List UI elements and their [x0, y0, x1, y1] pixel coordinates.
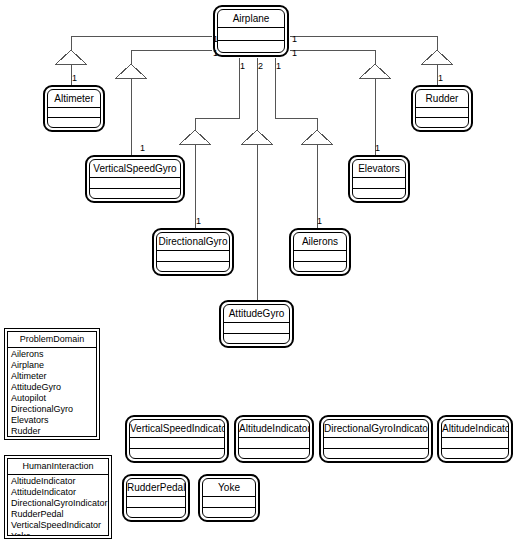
class-box-altitude_ind_2[interactable]: AltitudeIndicator — [437, 415, 513, 463]
class-attributes-compartment — [48, 108, 100, 118]
package-list-item[interactable]: Airplane — [11, 360, 93, 371]
generalization-triangle-directionalgyro — [180, 130, 210, 144]
class-name: AltitudeIndicator — [442, 420, 508, 438]
class-operations-compartment — [90, 189, 180, 199]
multiplicity-m-ag-bot: 2 — [258, 62, 263, 71]
generalization-triangle-elevators — [360, 64, 390, 78]
package-box-human_interaction[interactable]: HumanInteractionAltitudeIndicatorAttitud… — [4, 455, 112, 539]
class-attributes-compartment — [442, 438, 508, 449]
class-box-vertical_speed_gyro[interactable]: VerticalSpeedGyro — [85, 155, 185, 203]
multiplicity-m-altimeter: 1 — [72, 74, 77, 83]
class-box-inner: Ailerons — [293, 232, 347, 272]
multiplicity-m-alt-top: 1 — [213, 35, 218, 44]
package-name: ProblemDomain — [8, 332, 96, 348]
class-name: VerticalSpeedIndicator — [130, 420, 224, 438]
multiplicity-m-elevators: 1 — [375, 144, 380, 153]
package-list-item[interactable]: DirectionalGyro — [11, 404, 93, 415]
multiplicity-m-rud-top: 1 — [292, 35, 297, 44]
class-name: Rudder — [416, 90, 468, 108]
class-box-inner: DirectionalGyro — [156, 232, 230, 272]
line-airplane-ailerons — [275, 58, 317, 130]
line-airplane-rudder — [290, 36, 437, 50]
class-attributes-compartment — [203, 497, 255, 508]
package-item-list: AileronsAirplaneAltimeterAttitudeGyroAut… — [8, 348, 96, 437]
package-item-list: AltitudeIndicatorAttitudeIndicatorDirect… — [8, 475, 108, 536]
class-box-vertical_speed_ind[interactable]: VerticalSpeedIndicator — [125, 415, 229, 463]
package-list-item[interactable]: AttitudeGyro — [11, 382, 93, 393]
class-operations-compartment — [130, 449, 224, 459]
class-box-rudder_pedal[interactable]: RudderPedal — [122, 474, 190, 522]
line-airplane-verticalspeedgyro — [131, 50, 212, 64]
generalization-triangle-ailerons — [302, 130, 332, 144]
class-box-inner: VerticalSpeedIndicator — [129, 419, 225, 459]
class-box-rudder[interactable]: Rudder — [411, 85, 473, 132]
multiplicity-m-vsgyro: 1 — [140, 144, 145, 153]
multiplicity-m-ail-bot: 1 — [276, 62, 281, 71]
class-operations-compartment — [239, 449, 309, 459]
class-name: VerticalSpeedGyro — [90, 160, 180, 178]
class-operations-compartment — [416, 118, 468, 127]
package-list-item[interactable]: Yoke — [11, 531, 105, 536]
package-box-problem_domain[interactable]: ProblemDomainAileronsAirplaneAltimeterAt… — [4, 328, 100, 440]
package-list-item[interactable]: Autopilot — [11, 393, 93, 404]
package-list-item[interactable]: DirectionalGyroIndicator — [11, 498, 105, 509]
class-operations-compartment — [442, 449, 508, 459]
package-box-inner: ProblemDomainAileronsAirplaneAltimeterAt… — [7, 331, 97, 437]
class-attributes-compartment — [90, 178, 180, 189]
class-box-attitude_gyro[interactable]: AttitudeGyro — [219, 300, 294, 348]
class-box-inner: VerticalSpeedGyro — [89, 159, 181, 199]
package-list-item[interactable]: Elevators — [11, 415, 93, 426]
class-name: Altimeter — [48, 90, 100, 108]
class-box-directional_gyro[interactable]: DirectionalGyro — [152, 228, 234, 276]
class-operations-compartment — [203, 508, 255, 518]
multiplicity-m-ailerons: 1 — [317, 217, 322, 226]
generalization-triangle-rudder — [422, 50, 452, 64]
class-box-inner: AltitudeIndicator — [441, 419, 509, 459]
generalization-triangle-verticalspeedgyro — [116, 64, 146, 78]
class-box-altitude_ind_1[interactable]: AltitudeIndicator — [234, 415, 314, 463]
class-operations-compartment — [157, 262, 229, 272]
package-list-item[interactable]: RudderPedal — [11, 509, 105, 520]
class-name: Elevators — [353, 160, 405, 178]
line-airplane-directionalgyro — [195, 58, 239, 130]
class-box-airplane[interactable]: Airplane — [213, 5, 289, 57]
class-attributes-compartment — [127, 497, 185, 508]
package-list-item[interactable]: AttitudeIndicator — [11, 487, 105, 498]
class-box-yoke[interactable]: Yoke — [198, 474, 260, 522]
class-box-inner: Rudder — [415, 89, 469, 128]
class-box-inner: Altimeter — [47, 89, 101, 128]
class-box-inner: Yoke — [202, 478, 256, 518]
class-attributes-compartment — [224, 323, 289, 334]
class-box-elevators[interactable]: Elevators — [348, 155, 410, 203]
class-operations-compartment — [127, 508, 185, 518]
package-list-item[interactable]: Rudder — [11, 426, 93, 437]
class-attributes-compartment — [416, 108, 468, 118]
class-attributes-compartment — [353, 178, 405, 189]
class-box-directional_gyro_ind[interactable]: DirectionalGyroIndicator — [319, 415, 433, 463]
class-name: Airplane — [218, 10, 284, 28]
package-list-item[interactable]: VerticalSpeedIndicator — [11, 520, 105, 531]
class-operations-compartment — [353, 189, 405, 199]
class-operations-compartment — [218, 41, 284, 53]
class-box-ailerons[interactable]: Ailerons — [289, 228, 351, 276]
line-airplane-altimeter — [71, 36, 212, 50]
class-attributes-compartment — [294, 251, 346, 262]
generalization-triangle-attitudegyro — [242, 130, 272, 144]
package-list-item[interactable]: Ailerons — [11, 349, 93, 360]
class-box-altimeter[interactable]: Altimeter — [43, 85, 105, 132]
class-operations-compartment — [294, 262, 346, 272]
class-name: DirectionalGyroIndicator — [324, 420, 428, 438]
class-box-inner: RudderPedal — [126, 478, 186, 518]
package-box-inner: HumanInteractionAltitudeIndicatorAttitud… — [7, 458, 109, 536]
class-name: Ailerons — [294, 233, 346, 251]
class-operations-compartment — [48, 118, 100, 127]
class-attributes-compartment — [324, 438, 428, 449]
class-attributes-compartment — [239, 438, 309, 449]
class-box-inner: AttitudeGyro — [223, 304, 290, 344]
multiplicity-m-dg-bot: 1 — [240, 62, 245, 71]
uml-diagram-canvas: AirplaneAltimeterVerticalSpeedGyroDirect… — [0, 0, 518, 543]
package-list-item[interactable]: AltitudeIndicator — [11, 476, 105, 487]
package-name: HumanInteraction — [8, 459, 108, 475]
package-list-item[interactable]: Altimeter — [11, 371, 93, 382]
multiplicity-m-dirgyro: 1 — [196, 217, 201, 226]
